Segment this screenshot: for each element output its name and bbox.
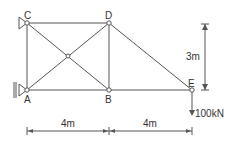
label-D: D [105, 10, 112, 21]
label-B: B [105, 94, 112, 105]
label-A: A [24, 94, 31, 105]
member-DE [109, 23, 192, 90]
crossing-node [66, 54, 70, 58]
dim-arrow-bottom [202, 84, 208, 90]
label-E: E [188, 78, 195, 89]
label-C: C [24, 10, 31, 21]
joint-D [107, 21, 111, 25]
dim-arrow-top [202, 24, 208, 30]
joint-A [25, 88, 29, 92]
dim-arrow-1l [28, 129, 33, 133]
dim-vertical-label: 3m [186, 51, 200, 62]
dim-arrow-2r [186, 129, 191, 133]
dim-arrow-1r [103, 129, 108, 133]
dim-arrow-2l [110, 129, 115, 133]
joint-C [25, 21, 29, 25]
truss-diagram: C D A B E 3m 100kN 4m 4m [0, 0, 233, 147]
dim-horizontal-label-2: 4m [143, 118, 157, 129]
load-label: 100kN [195, 108, 224, 119]
dim-horizontal-label-1: 4m [61, 118, 75, 129]
joint-B [107, 88, 111, 92]
